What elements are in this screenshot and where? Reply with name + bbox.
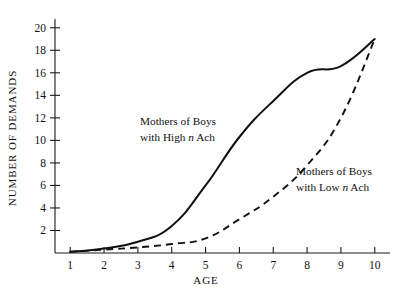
y-tick-label: 14	[35, 89, 47, 101]
annot-high-line2: with High n Ach	[140, 129, 216, 145]
x-tick-label: 6	[237, 259, 243, 271]
annot-low-line2-pre: with Low	[296, 181, 342, 193]
x-tick-label: 8	[304, 259, 310, 271]
annot-high-line2-post: Ach	[194, 131, 215, 143]
y-tick-label: 8	[40, 157, 46, 169]
x-tick-label: 5	[203, 259, 209, 271]
annot-low-line2: with Low n Ach	[296, 179, 372, 195]
y-tick-label: 2	[40, 224, 46, 236]
chart-figure: 246810121416182012345678910 NUMBER OF DE…	[0, 0, 412, 297]
x-tick-label: 9	[338, 259, 344, 271]
annot-low-line2-post: Ach	[348, 181, 369, 193]
y-tick-label: 16	[35, 67, 47, 79]
series-annotation-low-n-ach: Mothers of Boys with Low n Ach	[296, 163, 372, 195]
annot-high-line2-pre: with High	[140, 131, 188, 143]
y-tick-label: 4	[40, 202, 46, 214]
x-axis-title: AGE	[0, 274, 412, 286]
y-tick-label: 6	[40, 179, 46, 191]
line-chart-plot: 246810121416182012345678910	[0, 0, 412, 297]
y-tick-label: 12	[35, 112, 47, 124]
annot-low-line1: Mothers of Boys	[296, 163, 372, 179]
x-tick-label: 1	[67, 259, 73, 271]
series-line-high-n-ach	[70, 39, 375, 252]
series-line-low-n-ach	[70, 39, 375, 252]
y-tick-label: 20	[35, 22, 47, 34]
data-series-group	[70, 39, 375, 252]
tick-labels-group: 246810121416182012345678910	[35, 22, 381, 271]
series-annotation-high-n-ach: Mothers of Boys with High n Ach	[140, 113, 216, 145]
y-tick-label: 18	[35, 44, 47, 56]
y-tick-label: 10	[35, 134, 47, 146]
annot-high-line1: Mothers of Boys	[140, 113, 216, 129]
axes-group	[55, 19, 390, 253]
y-axis-title: NUMBER OF DEMANDS	[6, 63, 18, 213]
x-tick-label: 3	[135, 259, 141, 271]
x-tick-label: 7	[270, 259, 276, 271]
x-tick-label: 4	[169, 259, 175, 271]
x-tick-label: 10	[369, 259, 381, 271]
x-tick-label: 2	[101, 259, 107, 271]
